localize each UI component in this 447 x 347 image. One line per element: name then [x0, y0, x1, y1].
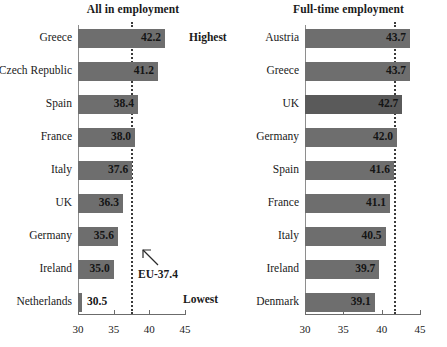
x-axis-tick	[420, 310, 421, 315]
bar-value-label: 36.3	[99, 196, 119, 208]
category-label: UK	[55, 196, 72, 208]
category-label: Germany	[256, 130, 299, 142]
bar-row: Austria43.7	[305, 29, 420, 48]
x-axis-tick-label: 30	[300, 323, 311, 335]
bar-row: France41.1	[305, 194, 420, 213]
bar-value-label: 40.5	[361, 229, 381, 241]
bar-value-label: 41.1	[366, 196, 386, 208]
page-title-left: All in employment	[0, 3, 224, 15]
x-axis-tick-label: 30	[73, 323, 84, 335]
bar-value-label: 39.7	[355, 262, 375, 274]
bar-row: Germany42.0	[305, 128, 420, 147]
category-label: Ireland	[266, 262, 299, 274]
plot-area-right: 30354045Austria43.7Greece43.7UK42.7Germa…	[305, 25, 420, 315]
bar-value-label: 41.6	[370, 163, 390, 175]
bar-row: Italy37.6	[78, 161, 185, 180]
bar-value-label: 43.7	[386, 31, 406, 43]
bar-row: Netherlands30.5	[78, 293, 185, 312]
bar-value-label: 42.2	[141, 31, 161, 43]
x-axis-tick-label: 45	[415, 323, 426, 335]
category-label: Germany	[29, 229, 72, 241]
bar-value-label: 37.6	[108, 163, 128, 175]
bar-row: Spain38.4	[78, 95, 185, 114]
bar-value-label: 39.1	[351, 295, 371, 307]
category-label: Greece	[266, 64, 299, 76]
chart-panel-full-time-employment: Full-time employment 30354045Austria43.7…	[224, 0, 447, 347]
bar-value-label: 42.0	[373, 130, 393, 142]
x-axis-line-right	[305, 314, 420, 315]
category-label: Italy	[51, 163, 72, 175]
category-label: France	[268, 196, 299, 208]
bar-value-label: 35.6	[94, 229, 114, 241]
bar-value-label: 38.4	[114, 97, 134, 109]
x-axis-tick-label: 35	[338, 323, 349, 335]
category-label: Ireland	[39, 262, 72, 274]
bar-row: France38.0	[78, 128, 185, 147]
bar-row: Italy40.5	[305, 227, 420, 246]
bar-value-label: 38.0	[111, 130, 131, 142]
bar-row: Greece43.7	[305, 62, 420, 81]
bar-row: UK36.3	[78, 194, 185, 213]
bar-row: Czech Republic41.2	[78, 62, 185, 81]
bar-row: Spain41.6	[305, 161, 420, 180]
category-label: Netherlands	[16, 295, 72, 307]
category-label: Italy	[278, 229, 299, 241]
bar-row: Ireland39.7	[305, 260, 420, 279]
x-axis-tick-label: 35	[108, 323, 119, 335]
bar	[78, 293, 82, 312]
category-label: Greece	[39, 31, 72, 43]
x-axis-line-left	[78, 314, 185, 315]
bar-row: Greece42.2	[78, 29, 185, 48]
x-axis-tick-label: 45	[180, 323, 191, 335]
rank-label-highest: Highest	[189, 31, 227, 43]
bar-row: Germany35.6	[78, 227, 185, 246]
category-label: Spain	[46, 97, 72, 109]
bar-value-label: 30.5	[87, 295, 107, 307]
bar-row: UK42.7	[305, 95, 420, 114]
category-label: UK	[282, 97, 299, 109]
bar-value-label: 35.0	[90, 262, 110, 274]
bar-value-label: 41.2	[134, 64, 154, 76]
eu-average-label-left: EU-37.4	[138, 268, 178, 280]
x-axis-tick	[185, 310, 186, 315]
category-label: France	[41, 130, 72, 142]
page-title-right: Full-time employment	[224, 3, 447, 15]
x-axis-tick-label: 40	[144, 323, 155, 335]
bar-value-label: 43.7	[386, 64, 406, 76]
bar-row: Denmark39.1	[305, 293, 420, 312]
x-axis-tick-label: 40	[376, 323, 387, 335]
chart-panel-all-in-employment: All in employment 30354045Greece42.2Czec…	[0, 0, 224, 347]
category-label: Spain	[273, 163, 299, 175]
bar-value-label: 42.7	[378, 97, 398, 109]
category-label: Austria	[265, 31, 299, 43]
arrow-up-left-icon-left	[139, 246, 161, 268]
category-label: Czech Republic	[0, 64, 72, 76]
category-label: Denmark	[256, 295, 299, 307]
rank-label-lowest: Lowest	[183, 293, 218, 305]
